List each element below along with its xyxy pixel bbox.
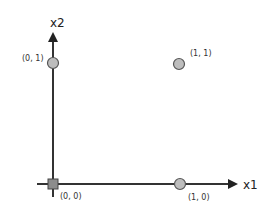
point-1-1-circle <box>174 59 185 70</box>
point-1-0-circle <box>175 179 186 190</box>
point-0-1-label: (0, 1) <box>22 54 44 63</box>
point-0-0-square <box>48 179 58 189</box>
point-0-1-circle <box>48 58 59 69</box>
x2-axis-arrowhead-icon <box>48 32 58 42</box>
point-1-0-label: (1, 0) <box>188 193 210 202</box>
x1-axis-arrowhead-icon <box>228 179 238 189</box>
x2-axis-label: x2 <box>50 16 65 30</box>
point-0-0-label: (0, 0) <box>60 192 82 201</box>
xor-input-space-diagram: x2 x1 (0, 0) (0, 1) (1, 0) (1, 1) <box>0 0 267 220</box>
point-1-1-label: (1, 1) <box>190 49 212 58</box>
x1-axis-label: x1 <box>243 178 258 192</box>
